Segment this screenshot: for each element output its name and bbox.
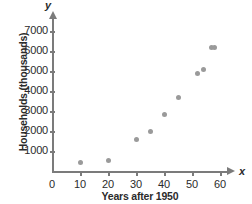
x-axis-letter: x (239, 165, 245, 177)
data-point (176, 95, 181, 100)
x-tick-30 (136, 171, 138, 176)
data-point (212, 45, 217, 50)
x-axis-title: Years after 1950 (52, 190, 228, 202)
y-tick-2000 (50, 131, 55, 133)
x-tick-10 (80, 171, 82, 176)
data-point (134, 137, 139, 142)
y-axis-title: Households (thousands) (17, 17, 29, 167)
y-tick-4000 (50, 91, 55, 93)
x-tick-40 (164, 171, 166, 176)
data-point (148, 129, 153, 134)
y-axis-letter: y (45, 0, 51, 11)
y-tick-3000 (50, 111, 55, 113)
data-point (78, 160, 83, 165)
data-point (201, 67, 206, 72)
y-axis-arrow-icon (49, 11, 57, 19)
scatter-plot-figure: x y 0102030405060 1000200030004000500060… (0, 0, 252, 204)
data-point (162, 112, 167, 117)
x-axis-line (52, 171, 228, 173)
data-point (195, 71, 200, 76)
data-point (106, 158, 111, 163)
x-tick-50 (192, 171, 194, 176)
y-tick-5000 (50, 71, 55, 73)
x-tick-label-60: 60 (200, 178, 240, 190)
x-tick-60 (220, 171, 222, 176)
y-tick-1000 (50, 151, 55, 153)
x-tick-20 (108, 171, 110, 176)
y-axis-line (52, 18, 54, 171)
y-tick-7000 (50, 31, 55, 33)
y-tick-6000 (50, 51, 55, 53)
x-axis-arrow-icon (227, 167, 235, 175)
